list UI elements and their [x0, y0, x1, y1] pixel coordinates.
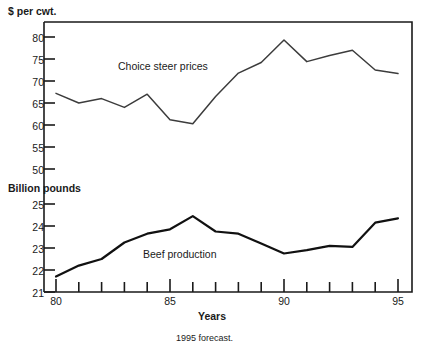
series-line-choice-steer-prices [56, 40, 398, 124]
chart-plot-area [0, 0, 421, 349]
chart-figure: $ per cwt. Billion pounds 80 75 70 65 60… [0, 0, 421, 349]
chart-frame [44, 22, 412, 292]
series-line-beef-production [56, 216, 398, 277]
